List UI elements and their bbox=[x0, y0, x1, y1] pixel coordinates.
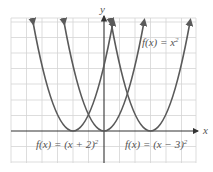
label-x-squared: f(x) = x2 bbox=[142, 36, 179, 49]
y-axis-label: y bbox=[99, 3, 105, 15]
label-x-minus-3-squared: f(x) = (x − 3)2 bbox=[125, 138, 188, 151]
label-x-minus-3-exp: 2 bbox=[184, 138, 188, 146]
label-x-plus-2-exp: 2 bbox=[95, 138, 99, 146]
x-axis-label: x bbox=[202, 124, 208, 136]
parabola-chart: y x f(x) = x2 f(x) = (x + 2)2 f(x) = (x … bbox=[0, 0, 213, 172]
label-x-minus-3-text: f(x) = (x − 3) bbox=[125, 138, 184, 151]
label-x-plus-2-squared: f(x) = (x + 2)2 bbox=[36, 138, 99, 151]
label-x-squared-exp: 2 bbox=[175, 36, 179, 44]
label-x-plus-2-text: f(x) = (x + 2) bbox=[36, 138, 95, 151]
label-x-squared-text: f(x) = x bbox=[142, 36, 175, 49]
